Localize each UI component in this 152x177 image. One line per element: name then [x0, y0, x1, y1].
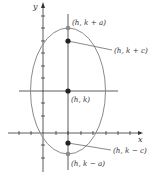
center-label: (h, k): [71, 95, 90, 104]
y-axis: [41, 5, 45, 172]
x-axis-label: x: [138, 135, 143, 144]
focus-top-label: (h, k + c): [114, 46, 148, 55]
leader-focus-top: [68, 41, 112, 50]
vertex-top-label: (h, k + a): [72, 18, 106, 27]
leader-focus-bottom: [68, 143, 111, 150]
vertex-bottom-label: (h, k − a): [71, 159, 105, 168]
center-point: [65, 88, 70, 93]
focus-bottom-point: [65, 140, 70, 145]
focus-top-point: [65, 38, 70, 43]
vertex-top-point: [66, 26, 71, 31]
focus-bottom-label: (h, k − c): [113, 146, 147, 155]
y-axis-arrow-icon: [41, 2, 45, 8]
ellipse-diagram: x y (h, k + a) (h, k + c) (h, k) (h, k −…: [0, 0, 152, 177]
y-axis-label: y: [32, 2, 38, 11]
x-axis: [8, 131, 140, 135]
vertex-bottom-point: [66, 152, 71, 157]
